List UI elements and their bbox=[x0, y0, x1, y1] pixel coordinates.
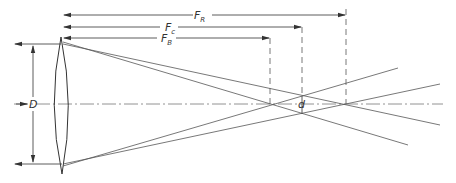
ray-bottom-blue bbox=[63, 68, 398, 166]
ray-top-red bbox=[63, 42, 408, 145]
ray-bottom-red bbox=[63, 84, 440, 164]
chromatic-aberration-diagram: D FR Fc FB d bbox=[0, 0, 456, 183]
biconvex-lens bbox=[54, 37, 68, 174]
blur-diameter-label: d bbox=[298, 98, 306, 111]
ray-top-blue bbox=[63, 44, 440, 125]
diameter-label: D bbox=[29, 98, 37, 111]
focus-red-label: FR bbox=[194, 9, 205, 24]
